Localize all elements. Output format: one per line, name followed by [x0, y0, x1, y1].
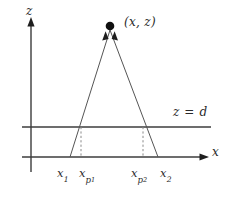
tick-label-x1-base: x	[57, 166, 64, 180]
z-axis-label: z	[26, 5, 32, 17]
tick-label-xp1-base: x	[79, 166, 86, 180]
source-point-label: (x, z)	[124, 16, 156, 28]
tick-label-xp1: xp1	[79, 168, 95, 182]
tick-label-xp2-subscript-num: 2	[143, 176, 147, 184]
tick-label-xp1-subscript-num: 1	[91, 176, 95, 184]
tick-label-x2-base: x	[160, 166, 167, 180]
z-axis	[27, 17, 34, 172]
source-point-dot	[106, 22, 115, 31]
z-axis-arrowhead	[27, 17, 34, 27]
level-line-label: z = d	[173, 106, 208, 118]
figure-canvas	[0, 0, 237, 201]
tick-label-x1: x1	[57, 168, 68, 182]
x-axis-arrowhead	[200, 153, 210, 160]
tick-label-xp2-base: x	[131, 166, 138, 180]
tick-label-x2: x2	[160, 168, 171, 182]
tick-label-xp2: xp2	[131, 168, 147, 182]
tick-label-x2-subscript: 2	[167, 175, 172, 184]
x-axis-label: x	[212, 146, 219, 158]
tick-label-x1-subscript: 1	[64, 175, 69, 184]
left-ray	[70, 30, 110, 157]
right-ray	[110, 30, 158, 157]
x-axis	[22, 153, 209, 160]
geometry-figure: z x (x, z) z = d x1 xp1 xp2 x2	[0, 0, 237, 201]
